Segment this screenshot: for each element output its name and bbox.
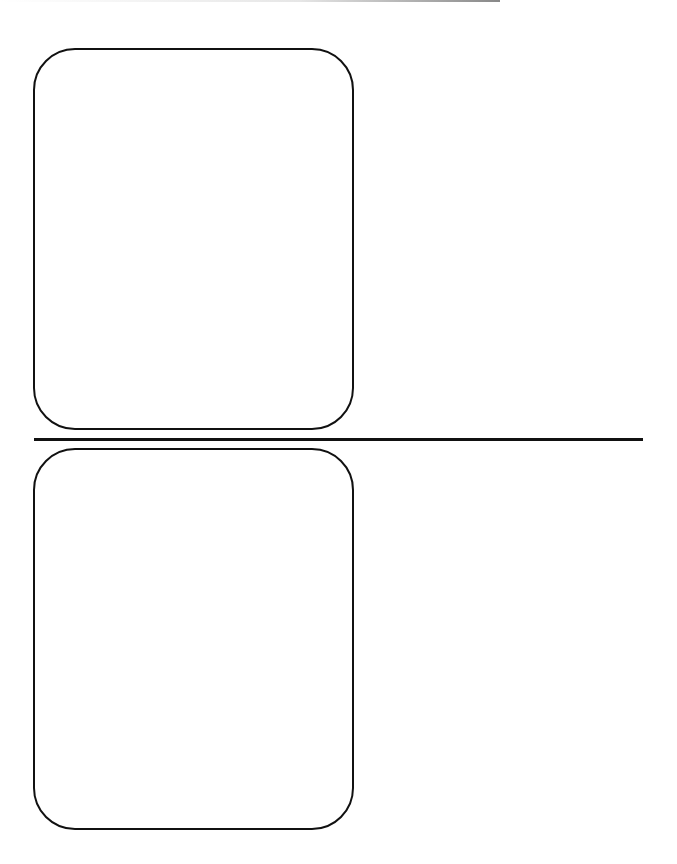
- bottom-rounded-panel: [33, 448, 354, 830]
- top-edge-line: [0, 0, 500, 2]
- top-rounded-panel: [33, 48, 354, 430]
- horizontal-divider: [34, 438, 643, 441]
